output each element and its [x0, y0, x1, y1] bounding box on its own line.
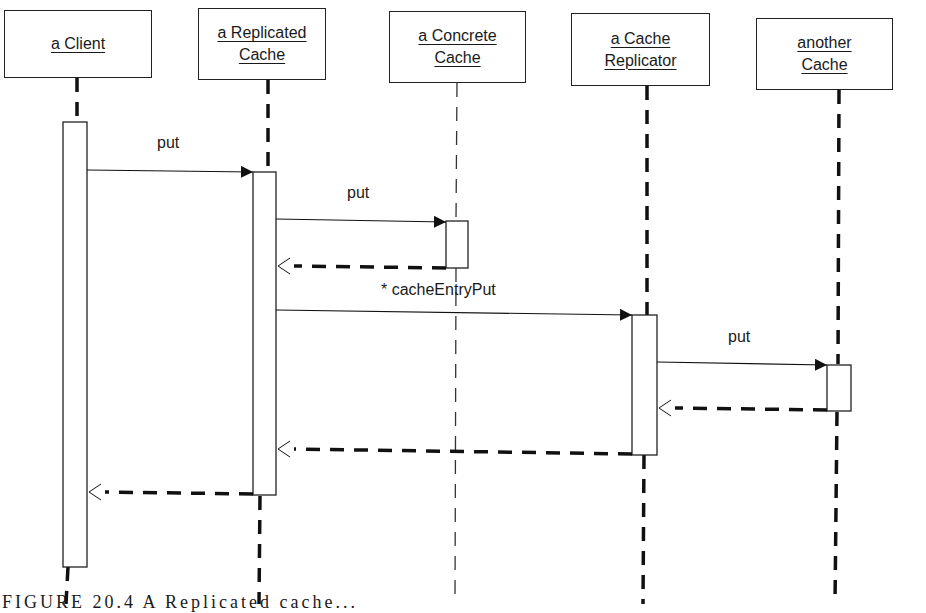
label-put-2: put	[347, 184, 369, 202]
activation-another-cache	[827, 365, 851, 411]
open-arrowhead-icon	[659, 400, 671, 416]
open-arrowhead-icon	[89, 484, 101, 500]
return-concrete-to-replicated	[294, 266, 446, 268]
message-put-replicated-to-concrete	[276, 219, 446, 222]
activation-cache-replicator	[632, 315, 657, 455]
label-cacheentryput: * cacheEntryPut	[381, 281, 496, 299]
activation-concrete-cache	[446, 221, 468, 268]
return-another-to-replicator	[675, 408, 827, 410]
open-arrowhead-icon	[278, 441, 290, 457]
message-cacheentryput	[276, 310, 632, 315]
return-replicator-to-replicated	[294, 449, 632, 454]
figure-caption: FIGURE 20.4 A Replicated cache...	[2, 592, 358, 613]
lifeline-another-cache	[835, 90, 839, 604]
label-put-3: put	[728, 328, 750, 346]
lifeline-concrete-cache	[455, 83, 457, 604]
activation-replicated-cache	[253, 172, 276, 495]
return-replicated-to-client	[105, 492, 253, 494]
message-put-client-to-replicated	[87, 170, 253, 172]
activation-client	[63, 122, 87, 567]
label-put-1: put	[157, 134, 179, 152]
message-put-replicator-to-another	[657, 362, 827, 365]
open-arrowhead-icon	[278, 258, 290, 274]
